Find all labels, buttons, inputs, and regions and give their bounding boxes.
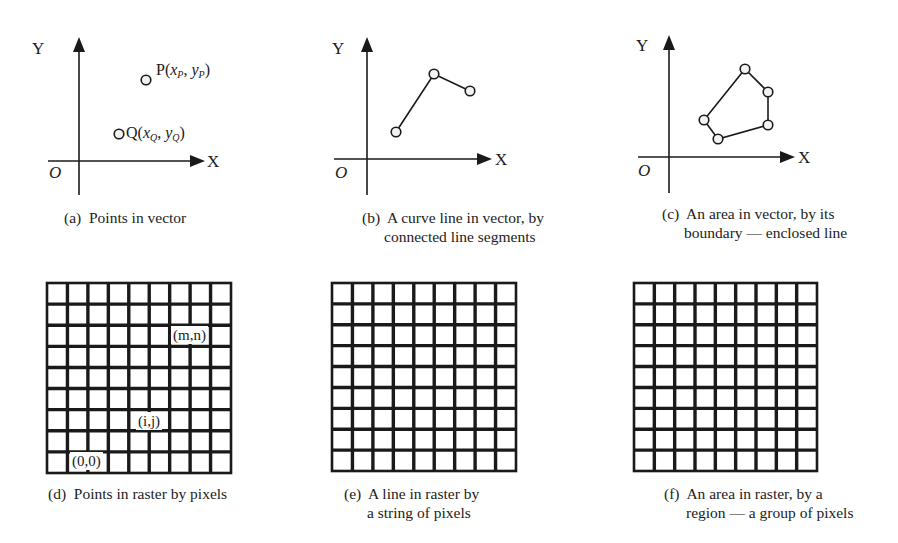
y-axis-label: Y [332, 40, 344, 57]
vertex-marker-icon [391, 127, 401, 137]
x-axis-arrow-icon [780, 151, 795, 163]
vertex-marker-icon [699, 115, 709, 125]
vertex-marker-icon [763, 87, 773, 97]
caption-d: (d) Points in raster by pixels [48, 484, 227, 503]
raster-grid-f-border [634, 283, 817, 471]
y-axis-label: Y [32, 40, 44, 57]
vector-raster-figure: Y X O P(xP, yP) Q(xQ, yQ) (a) Points in … [0, 0, 898, 543]
y-axis-arrow-icon [361, 37, 373, 52]
x-axis-arrow-icon [190, 155, 205, 167]
pixel-label-i-j: (i,j) [136, 412, 162, 430]
caption-c: (c) An area in vector, by its boundary —… [662, 204, 847, 242]
y-axis-arrow-icon [73, 37, 85, 52]
figure-artwork [0, 0, 898, 543]
curve-line-segments [396, 74, 470, 132]
area-boundary-polygon [704, 69, 768, 139]
raster-grid-d-border [47, 283, 231, 473]
x-axis-arrow-icon [477, 153, 492, 165]
vertex-marker-icon [713, 134, 723, 144]
pixel-label-origin: (0,0) [70, 452, 103, 470]
point-q-label: Q(xQ, yQ) [126, 125, 185, 146]
x-axis-label: X [495, 151, 507, 168]
y-axis-label: Y [636, 37, 648, 54]
caption-a: (a) Points in vector [64, 208, 186, 227]
pixel-label-m-n: (m,n) [171, 326, 208, 344]
point-p-label: P(xP, yP) [156, 62, 210, 83]
y-axis-arrow-icon [663, 35, 675, 50]
x-axis-label: X [207, 153, 219, 170]
caption-e: (e) A line in raster by a string of pixe… [344, 484, 479, 522]
origin-label: O [335, 164, 347, 181]
vertex-marker-icon [465, 86, 475, 96]
vertex-marker-icon [740, 64, 750, 74]
raster-grid-e-border [332, 283, 516, 471]
vertex-marker-icon [763, 120, 773, 130]
point-p-marker-icon [141, 75, 151, 85]
origin-label: O [49, 164, 61, 181]
origin-label: O [638, 162, 650, 179]
vertex-marker-icon [429, 69, 439, 79]
x-axis-label: X [798, 149, 810, 166]
point-q-marker-icon [114, 129, 124, 139]
caption-f: (f) An area in raster, by a region — a g… [664, 484, 853, 522]
caption-b: (b) A curve line in vector, by connected… [362, 208, 544, 246]
